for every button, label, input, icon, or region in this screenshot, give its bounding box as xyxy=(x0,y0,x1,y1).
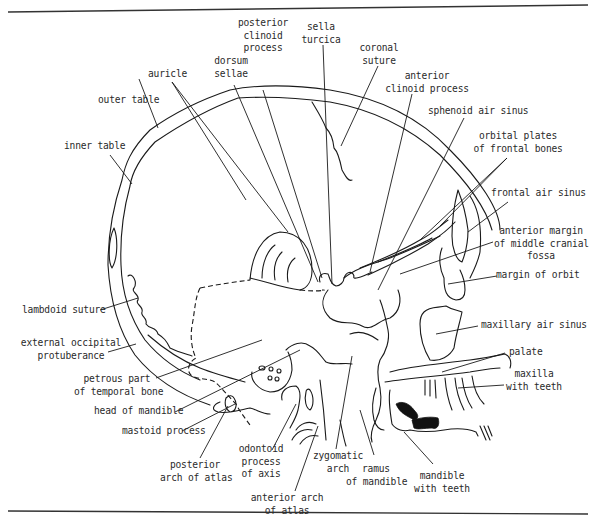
label-inner-table: inner table xyxy=(64,140,125,153)
coronal-suture-line xyxy=(312,102,352,180)
occipital-base-curve xyxy=(148,335,245,382)
frontal-bone-anterior xyxy=(470,196,481,278)
label-outer-table: outer table xyxy=(98,94,159,107)
label-posterior-clinoid-process: posterior clinoid process xyxy=(228,17,298,55)
label-maxilla-with-teeth: maxilla with teeth xyxy=(504,368,564,393)
auricle-inner-2 xyxy=(274,252,282,280)
label-palate: palate xyxy=(509,346,542,359)
label-posterior-arch-of-atlas: posterior arch of atlas xyxy=(160,459,230,484)
lambdoid-suture-line xyxy=(128,275,192,356)
orbital-plates-streak-3 xyxy=(378,238,432,262)
petrous-dashed-outline xyxy=(189,280,325,425)
label-odontoid-process-of-axis: odontoid process of axis xyxy=(236,443,286,481)
label-dorsum-sellae: dorsum sellae xyxy=(206,55,256,80)
spine-line-1 xyxy=(320,380,326,440)
top-rule xyxy=(8,5,588,12)
label-sphenoid-air-sinus: sphenoid air sinus xyxy=(428,105,528,118)
label-petrous-part: petrous part of temporal bone xyxy=(74,373,160,398)
auricle-inner-1 xyxy=(262,245,275,278)
label-auricle: auricle xyxy=(148,68,187,81)
label-anterior-margin-middle-cranial-fossa: anterior margin of middle cranial fossa xyxy=(494,225,588,263)
auricle-shape xyxy=(250,232,312,290)
label-frontal-air-sinus: frontal air sinus xyxy=(491,187,586,200)
maxilla-teeth xyxy=(425,376,484,410)
orbital-plates-streak-1 xyxy=(360,220,448,268)
atlas-posterior-arch xyxy=(214,396,270,414)
label-orbital-plates: orbital plates of frontal bones xyxy=(468,130,568,155)
label-coronal-suture: coronal suture xyxy=(354,42,404,67)
label-anterior-clinoid-process: anterior clinoid process xyxy=(382,70,472,95)
face-lower-contour xyxy=(350,332,378,340)
sella-turcica-shape xyxy=(319,272,372,286)
sphenoid-sinus-shape xyxy=(323,290,400,328)
atlas-anterior-arch xyxy=(292,422,318,444)
label-anterior-arch-of-atlas: anterior arch of atlas xyxy=(242,492,332,517)
mastoid-outline xyxy=(252,352,292,392)
anterior-clinoid-shape xyxy=(344,236,440,278)
label-sella-turcica: sella turcica xyxy=(296,21,346,46)
label-head-of-mandible: head of mandible xyxy=(94,405,183,418)
label-maxillary-air-sinus: maxillary air sinus xyxy=(481,319,587,332)
label-mandible-with-teeth: mandible with teeth xyxy=(412,470,472,495)
label-external-occipital-protuberance: external occipital protuberance xyxy=(20,337,122,362)
spine-line-2 xyxy=(340,420,346,446)
mandible-filling-2 xyxy=(412,417,439,429)
head-of-mandible-shape xyxy=(286,343,352,364)
palate-lower xyxy=(385,368,500,382)
label-lambdoid-suture: lambdoid suture xyxy=(22,304,106,317)
label-margin-of-orbit: margin of orbit xyxy=(496,269,580,282)
skull-diagram xyxy=(0,0,596,527)
auricle-inner-3 xyxy=(287,258,295,282)
mandible-filling-1 xyxy=(396,402,418,420)
label-ramus-of-mandible: ramus of mandible xyxy=(346,463,406,488)
label-mastoid-process: mastoid process xyxy=(122,425,206,438)
